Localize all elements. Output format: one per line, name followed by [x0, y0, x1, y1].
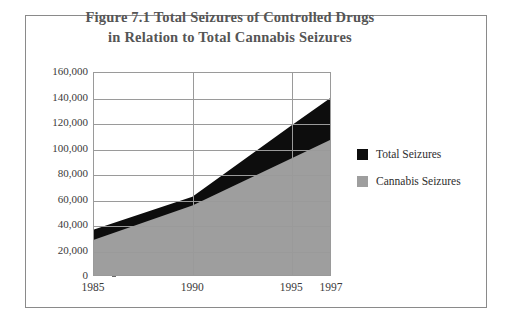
x-axis: 1985199019951997	[93, 282, 331, 300]
y-axis-tick-label: 0	[26, 270, 88, 281]
gridline-horizontal	[94, 175, 330, 176]
y-axis-tick-label: 20,000	[26, 245, 88, 256]
gridline-horizontal	[94, 201, 330, 202]
y-axis-tick-label: 100,000	[26, 143, 88, 154]
y-axis-tick-label: 120,000	[26, 117, 88, 128]
gridline-vertical	[292, 73, 293, 275]
legend-label-cannabis-seizures: Cannabis Seizures	[376, 176, 461, 188]
gridline-horizontal	[94, 150, 330, 151]
gridline-horizontal	[94, 124, 330, 125]
y-axis: 160,000140,000120,000100,00080,00060,000…	[24, 72, 88, 276]
chart-legend: Total Seizures Cannabis Seizures	[357, 148, 487, 202]
plot-area	[93, 72, 331, 276]
y-axis-tick-label: 60,000	[26, 194, 88, 205]
legend-swatch-cannabis-seizures	[357, 176, 368, 187]
y-axis-tick-label: 140,000	[26, 92, 88, 103]
y-axis-tick-label: 40,000	[26, 219, 88, 230]
y-axis-tick-mark	[112, 276, 116, 277]
area-chart-plot	[94, 73, 330, 275]
legend-item-cannabis-seizures: Cannabis Seizures	[357, 175, 487, 188]
y-axis-tick-label: 80,000	[26, 168, 88, 179]
gridline-horizontal	[94, 99, 330, 100]
legend-swatch-total-seizures	[357, 149, 368, 160]
area-series-cannabis-seizures	[94, 140, 330, 275]
gridline-horizontal	[94, 252, 330, 253]
gridline-vertical	[193, 73, 194, 275]
x-axis-tick-label: 1990	[181, 282, 204, 294]
gridline-horizontal	[94, 226, 330, 227]
x-axis-tick-label: 1985	[82, 282, 105, 294]
legend-item-total-seizures: Total Seizures	[357, 148, 487, 161]
x-axis-tick-label: 1997	[320, 282, 343, 294]
x-axis-tick-label: 1995	[280, 282, 303, 294]
legend-label-total-seizures: Total Seizures	[376, 149, 441, 161]
y-axis-tick-label: 160,000	[26, 66, 88, 77]
